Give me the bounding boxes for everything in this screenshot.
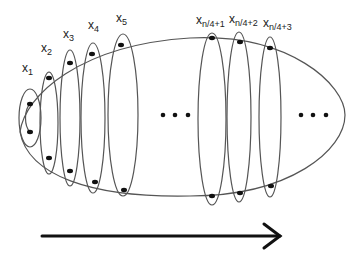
point — [121, 188, 127, 192]
point — [46, 156, 52, 160]
point — [118, 43, 124, 47]
label-x1: x1 — [22, 61, 33, 77]
label-xn4p3: xn/4+3 — [263, 16, 292, 32]
point — [46, 76, 52, 80]
set-xn4p1 — [198, 33, 226, 205]
set-x1-outer — [19, 89, 41, 147]
point — [237, 191, 243, 195]
set-xn4p2 — [227, 32, 251, 202]
point — [27, 130, 33, 134]
point — [92, 180, 98, 184]
label-xn4p1: xn/4+1 — [196, 13, 225, 29]
point — [67, 61, 73, 65]
label-x2: x2 — [41, 41, 52, 57]
point — [237, 40, 243, 44]
label-x3: x3 — [63, 27, 74, 43]
point — [89, 52, 95, 56]
set-xn4p3 — [259, 37, 281, 197]
diagram-canvas: x1 x2 x3 x4 x5 xn/4+1 xn/4+2 xn/4+3 — [0, 0, 361, 262]
label-x4: x4 — [88, 18, 99, 34]
label-xn4p2: xn/4+2 — [229, 12, 258, 28]
point — [267, 46, 273, 50]
ellipsis-right — [299, 113, 329, 118]
direction-arrow — [42, 224, 280, 248]
set-x4 — [81, 43, 105, 193]
set-x5 — [108, 34, 138, 196]
point — [209, 194, 215, 198]
point — [209, 36, 215, 40]
label-x5: x5 — [116, 11, 127, 27]
point — [27, 102, 33, 106]
point — [268, 184, 274, 188]
ellipsis-middle — [161, 113, 191, 118]
point — [67, 169, 73, 173]
